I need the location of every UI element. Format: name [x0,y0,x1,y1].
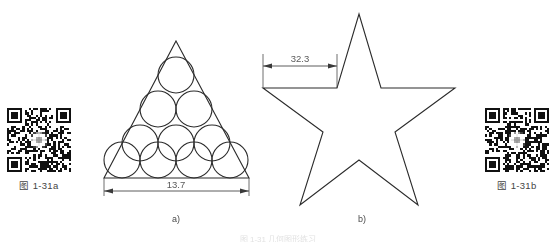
dimension-label-star-width: 32.3 [291,53,310,64]
star-outline [263,14,455,205]
arrowhead-right-icon [328,63,337,68]
packed-circle [158,57,194,93]
figure-sheet: 图 1-31a 图 1-31b [0,0,556,242]
subfigure-caption-a: a) [172,214,180,224]
dimension-label-base-width: 13.7 [167,179,186,190]
arrowhead-left-icon [104,188,113,193]
subfigure-caption-b: b) [358,214,366,224]
figure-b-star-group: 32.3 [263,14,455,205]
arrowhead-left-icon [263,63,272,68]
arrowhead-right-icon [240,188,249,193]
packed-circle [176,91,212,127]
packed-circle [140,91,176,127]
page-bottom-caption-strip: 图 1-31 几何图形练习 [0,233,556,242]
technical-drawings: 13.7 32.3 [0,0,556,242]
figure-a-triangle-group: 13.7 [104,41,249,196]
